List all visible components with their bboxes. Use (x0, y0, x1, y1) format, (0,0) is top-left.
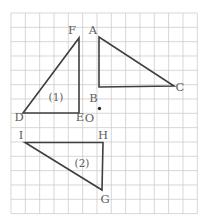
vertex-label-A: A (88, 23, 98, 37)
geometry-figure: FABCDEOIHG(1)(2) (0, 0, 212, 224)
vertex-label-H: H (98, 128, 108, 142)
triangle-ABC (99, 37, 174, 87)
vertex-label-B: B (89, 91, 97, 105)
vertex-label-G: G (100, 192, 109, 206)
vertex-label-D: D (14, 110, 23, 124)
vertex-label-I: I (19, 128, 24, 142)
vertex-label-O: O (85, 111, 94, 125)
vertex-label-C: C (176, 80, 185, 94)
triangle-tag-(1): (1) (49, 91, 64, 103)
triangle-2-IHG (25, 143, 103, 191)
vertex-label-E: E (76, 110, 84, 124)
triangle-tag-(2): (2) (75, 157, 90, 169)
point-O-dot (98, 107, 101, 110)
geometry-diagram: FABCDEOIHG(1)(2) (0, 0, 212, 224)
vertex-label-F: F (68, 23, 76, 37)
